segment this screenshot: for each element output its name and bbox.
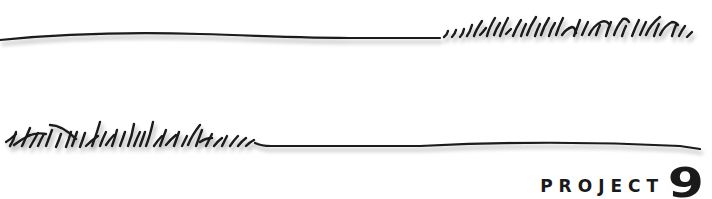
project-heading: PROJECT 9 [540,163,704,199]
project-number: 9 [668,163,704,199]
bottom-grass-rule [6,122,700,149]
project-label: PROJECT [540,178,664,199]
top-grass-rule [0,17,692,40]
